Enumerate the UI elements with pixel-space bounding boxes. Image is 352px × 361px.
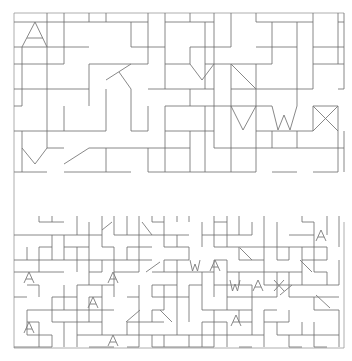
letter-a-glyph <box>108 272 118 283</box>
maze-svg <box>0 0 352 361</box>
maze-canvas <box>0 0 352 361</box>
diagonal-segment <box>146 262 160 272</box>
letter-a-glyph <box>24 272 34 283</box>
diagonal-segment <box>240 248 252 260</box>
diagonal-segment <box>231 64 256 89</box>
letter-a-glyph <box>316 230 326 241</box>
diagonal-segment <box>160 310 172 322</box>
letter-a-glyph <box>231 315 241 326</box>
diagonal-segment <box>280 285 292 295</box>
diagonal-segment <box>64 148 89 164</box>
upper-maze-panel <box>14 13 344 172</box>
letter-w-glyph <box>230 280 240 291</box>
diagonal-segment <box>126 310 140 322</box>
diagonal-segment <box>119 72 131 89</box>
letter-v-glyph <box>231 106 256 130</box>
letter-a-glyph <box>24 322 34 333</box>
letter-v-glyph <box>190 64 214 80</box>
letter-a-glyph <box>22 22 47 47</box>
letter-a-glyph <box>210 260 220 271</box>
diagonal-segment <box>102 222 112 230</box>
letter-w-glyph <box>190 260 200 271</box>
diagonal-segment <box>142 222 152 235</box>
lower-maze-panel <box>14 216 344 348</box>
letter-w-glyph <box>272 106 297 130</box>
letter-y-glyph <box>22 148 47 164</box>
letter-a-glyph <box>253 280 263 291</box>
letter-a-glyph <box>108 335 118 346</box>
diagonal-segment <box>106 64 131 80</box>
letter-a-glyph <box>88 297 98 308</box>
